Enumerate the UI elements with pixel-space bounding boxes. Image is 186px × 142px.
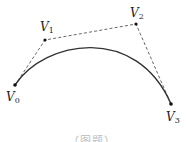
control-polygon [15,24,171,104]
point-v1 [43,38,46,41]
label-v0: V0 [6,91,20,105]
point-v0 [13,83,17,87]
label-v2: V2 [130,7,144,21]
label-v1: V1 [40,21,54,35]
point-v2 [134,22,137,25]
figure-caption: （图题） [68,136,116,142]
bezier-diagram [0,0,186,142]
bezier-curve [15,48,171,104]
label-v3: V3 [166,111,180,125]
point-v3 [169,102,173,106]
